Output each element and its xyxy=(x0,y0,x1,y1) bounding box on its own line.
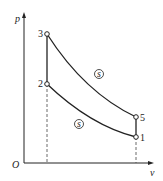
point-3 xyxy=(45,32,50,37)
marker-upper-label: s xyxy=(97,68,101,79)
point-5-label: 5 xyxy=(140,112,145,123)
point-2 xyxy=(45,82,50,87)
x-axis-arrow-icon xyxy=(148,161,154,165)
point-3-label: 3 xyxy=(38,28,43,39)
pv-diagram: s s p v O 3 2 5 1 xyxy=(0,0,163,181)
point-5 xyxy=(134,115,139,120)
point-1 xyxy=(134,135,139,140)
point-1-label: 1 xyxy=(140,132,145,143)
marker-lower-label: s xyxy=(77,118,81,129)
process-3-5 xyxy=(47,34,136,117)
marker-lower: s xyxy=(75,118,84,129)
marker-upper: s xyxy=(95,68,104,79)
y-axis-label: p xyxy=(14,13,20,24)
y-axis-arrow-icon xyxy=(22,12,26,18)
point-2-label: 2 xyxy=(38,78,43,89)
origin-label: O xyxy=(12,159,19,170)
x-axis-label: v xyxy=(150,167,155,178)
